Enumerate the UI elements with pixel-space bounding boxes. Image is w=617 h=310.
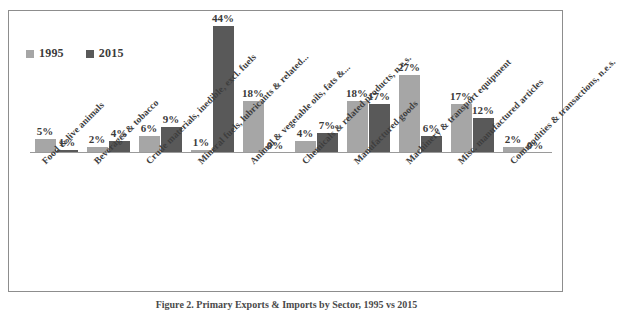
bar-value-label: 4% [297,127,314,139]
plot-area: 5%1%2%4%6%9%1%44%18%0%4%7%18%17%27%6%17%… [30,14,550,153]
bar-value-label: 5% [37,125,54,137]
bar-value-label: 12% [472,104,494,116]
category-axis-labels: Food & live animalsBeverages & tobaccoCr… [0,155,573,280]
bar-value-label: 44% [212,12,234,24]
bar-value-label: 6% [141,122,158,134]
figure-caption: Figure 2. Primary Exports & Imports by S… [0,299,573,310]
bar-value-label: 9% [163,113,180,125]
bar-value-label: 2% [505,133,522,145]
bar-value-label: 2% [89,133,106,145]
